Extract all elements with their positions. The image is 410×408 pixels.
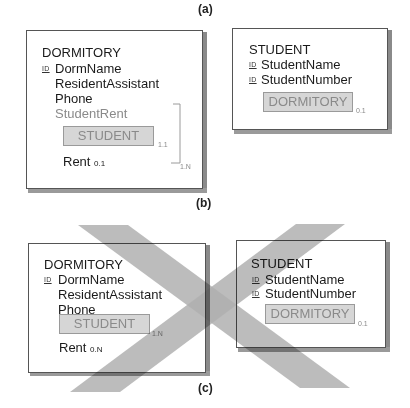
cross-out-x-icon	[0, 0, 410, 408]
panel-label-c: (c)	[198, 381, 213, 395]
